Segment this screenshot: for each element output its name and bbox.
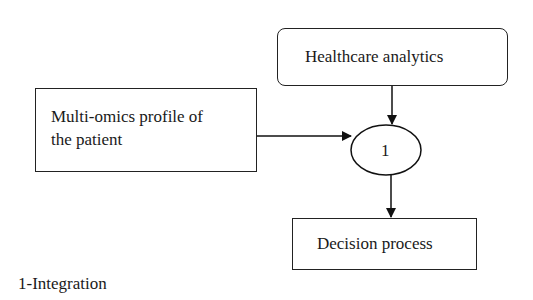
multiomics-label-line1: Multi-omics profile of bbox=[51, 106, 203, 127]
multiomics-profile-node: Multi-omics profile of the patient bbox=[35, 88, 257, 172]
multiomics-label-line2: the patient bbox=[51, 129, 122, 150]
healthcare-analytics-node: Healthcare analytics bbox=[277, 28, 508, 86]
healthcare-analytics-label: Healthcare analytics bbox=[305, 46, 443, 67]
decision-process-node: Decision process bbox=[292, 218, 477, 270]
legend-integration: 1-Integration bbox=[18, 273, 107, 294]
integration-node-label: 1 bbox=[381, 140, 390, 161]
decision-process-label: Decision process bbox=[317, 233, 433, 254]
